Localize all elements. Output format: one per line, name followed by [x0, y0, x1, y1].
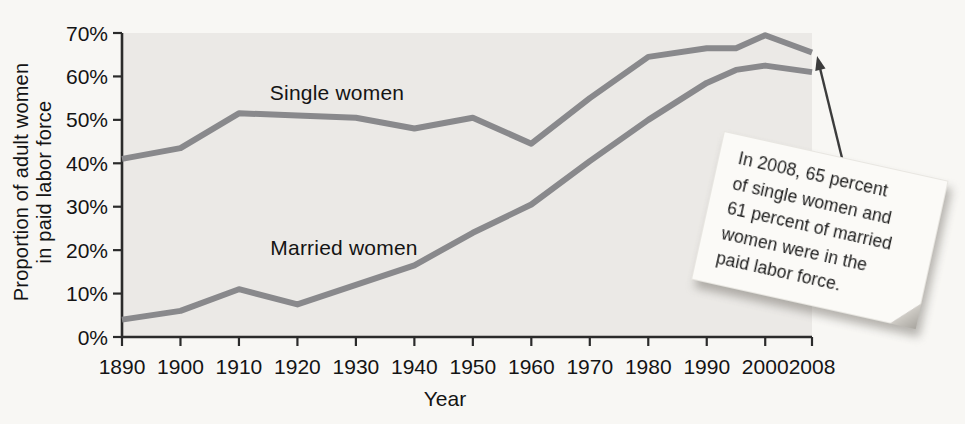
x-tick-label: 1990 [683, 355, 730, 378]
series-label-single-women: Single women [270, 81, 404, 105]
x-tick-label: 1980 [625, 355, 672, 378]
x-tick-label: 1960 [508, 355, 555, 378]
x-tick-label: 1950 [449, 355, 496, 378]
x-tick-label: 1930 [333, 355, 380, 378]
series-label-married-women: Married women [270, 236, 417, 260]
y-tick-label: 10% [66, 282, 108, 305]
y-tick-label: 50% [66, 108, 108, 131]
y-tick-label: 70% [66, 22, 108, 45]
x-tick-label: 1970 [566, 355, 613, 378]
x-tick-label: 1910 [216, 355, 263, 378]
y-tick-label: 0% [78, 326, 108, 349]
x-tick-label: 2008 [789, 355, 836, 378]
y-tick-label: 30% [66, 195, 108, 218]
x-tick-label: 1900 [157, 355, 204, 378]
x-tick-label: 1920 [274, 355, 321, 378]
chart-figure: 0%10%20%30%40%50%60%70%18901900191019201… [0, 0, 965, 424]
x-tick-label: 1890 [99, 355, 146, 378]
x-tick-label: 2000 [742, 355, 789, 378]
y-tick-label: 40% [66, 152, 108, 175]
y-tick-label: 20% [66, 239, 108, 262]
y-axis-title: Proportion of adult women in paid labor … [10, 63, 56, 301]
annotation-arrow-shaft [818, 60, 842, 158]
x-axis-title: Year [424, 387, 466, 411]
x-tick-label: 1940 [391, 355, 438, 378]
y-tick-label: 60% [66, 65, 108, 88]
annotation-arrowhead-icon [815, 56, 825, 71]
